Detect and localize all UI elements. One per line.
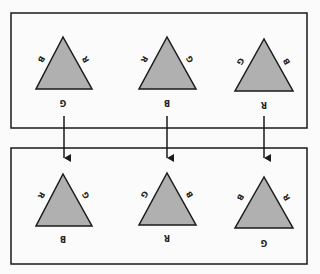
bottom-triangle-3: B R G (235, 177, 293, 247)
label-left: B (36, 54, 47, 64)
label-bottom: R (164, 233, 170, 242)
label-right: G (80, 190, 91, 200)
bottom-triangle-1: R G B (36, 174, 92, 243)
label-left: G (139, 189, 150, 199)
top-triangle-2: R G B (139, 37, 196, 107)
label-right: R (281, 192, 292, 202)
label-bottom: B (60, 234, 66, 243)
arrows (64, 116, 264, 158)
label-left: R (139, 54, 150, 64)
label-right: B (184, 189, 195, 199)
bottom-triangle-2: G B R (139, 173, 196, 242)
label-right: R (80, 54, 91, 64)
label-bottom: B (164, 98, 170, 107)
label-left: R (36, 190, 47, 200)
top-triangle-1: B R G (36, 37, 92, 107)
label-right: B (281, 56, 292, 66)
label-bottom: G (60, 98, 67, 107)
label-left: G (235, 56, 246, 66)
label-bottom: R (261, 100, 267, 109)
diagram-canvas: B R G R G B G B R R G B G B R B R G (0, 0, 320, 274)
label-right: G (184, 54, 195, 64)
label-bottom: G (261, 238, 268, 247)
top-triangle-3: G B R (235, 39, 293, 109)
label-left: B (235, 192, 246, 202)
